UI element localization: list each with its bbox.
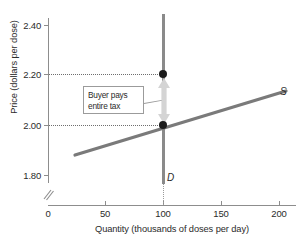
y-tick-label-2-20: 2.20 <box>23 69 41 80</box>
y-tick-1-80 <box>44 175 49 176</box>
x-tick-200 <box>279 201 280 206</box>
y-axis-break-icon <box>42 186 55 202</box>
x-tick-label-0: 0 <box>45 208 50 219</box>
x-tick-label-100: 100 <box>155 208 170 219</box>
supply-demand-chart: 2.40 2.20 2.00 1.80 0 50 100 150 200 Pri… <box>0 0 301 241</box>
x-axis-title: Quantity (thousands of doses per day) <box>48 224 296 234</box>
y-tick-label-1-80: 1.80 <box>23 170 41 181</box>
point-price-without-tax <box>159 121 167 129</box>
demand-curve-label: D <box>167 172 174 183</box>
buyer-pays-entire-tax-callout: Buyer pays entire tax <box>83 86 144 114</box>
x-tick-50 <box>105 201 106 206</box>
reference-line-price-2-20 <box>49 74 164 75</box>
reference-line-quantity-100 <box>163 183 164 205</box>
x-tick-label-150: 150 <box>213 208 228 219</box>
x-tick-150 <box>221 201 222 206</box>
y-tick-label-2-40: 2.40 <box>23 20 41 31</box>
y-axis-line <box>48 18 49 183</box>
supply-curve-label: S <box>280 86 287 97</box>
x-tick-label-50: 50 <box>100 208 110 219</box>
x-axis-line <box>48 205 296 206</box>
point-price-with-tax <box>159 70 167 78</box>
callout-line-1: Buyer pays <box>88 90 143 101</box>
y-axis-title: Price (dollars per dose) <box>9 2 19 132</box>
callout-line-2: entire tax <box>88 101 143 112</box>
y-tick-label-2-00: 2.00 <box>23 120 41 131</box>
y-tick-2-40 <box>44 25 49 26</box>
x-tick-label-200: 200 <box>271 208 286 219</box>
